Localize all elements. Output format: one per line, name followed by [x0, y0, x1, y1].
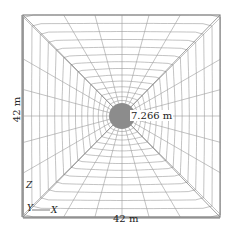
height-dimension-label: 42 m — [11, 97, 22, 122]
mesh-diagram — [0, 0, 235, 242]
axis-y-label: Y — [27, 203, 33, 213]
axis-x-label: X — [51, 205, 57, 215]
width-dimension-label: 42 m — [113, 213, 138, 224]
inclusion-radius-label: 7.266 m — [130, 110, 173, 121]
axis-z-label: Z — [26, 180, 32, 190]
